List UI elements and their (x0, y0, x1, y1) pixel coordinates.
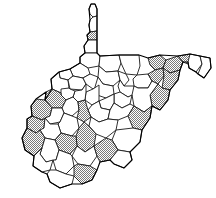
county-preston (119, 55, 140, 75)
county-pocahontas (128, 106, 152, 130)
county-marshall (84, 40, 97, 53)
west-virginia-county-map (0, 0, 216, 198)
map-container (0, 0, 216, 198)
county-ohio (87, 31, 97, 40)
county-layer (22, 4, 211, 188)
county-mcdowell (47, 170, 74, 188)
county-mercer (74, 164, 97, 184)
